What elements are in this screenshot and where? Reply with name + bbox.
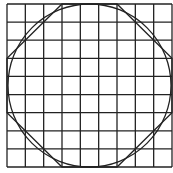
- inscribed-circle: [8, 4, 171, 167]
- grid-circle-octagon-diagram: [0, 0, 173, 173]
